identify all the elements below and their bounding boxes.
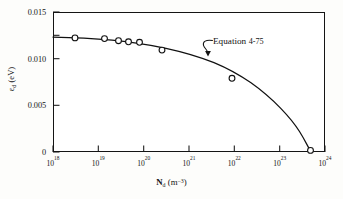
x-tick-exponent: 23 bbox=[281, 155, 286, 161]
x-tick-label: 1019 bbox=[92, 157, 105, 168]
annotation-text: Equation bbox=[213, 36, 246, 46]
annotation-arrow bbox=[203, 40, 212, 56]
y-tick-label: 0.015 bbox=[2, 8, 46, 17]
x-tick-exponent: 18 bbox=[54, 155, 59, 161]
data-point bbox=[229, 75, 235, 81]
x-axis-symbol: N bbox=[156, 177, 162, 187]
x-tick-exponent: 24 bbox=[326, 155, 331, 161]
x-axis-ticks bbox=[53, 146, 325, 153]
x-tick-label: 1022 bbox=[228, 157, 241, 168]
x-tick-exponent: 21 bbox=[190, 155, 195, 161]
y-tick-label: 0 bbox=[2, 148, 46, 157]
data-point bbox=[102, 36, 108, 42]
data-point bbox=[137, 39, 143, 45]
x-tick-exponent: 19 bbox=[99, 155, 104, 161]
chart-canvas bbox=[0, 0, 343, 199]
y-axis-units: (eV) bbox=[6, 67, 16, 83]
x-axis-units-exponent: −3 bbox=[178, 178, 184, 184]
x-tick-mantissa: 10 bbox=[228, 159, 236, 168]
x-tick-mantissa: 10 bbox=[92, 159, 100, 168]
x-tick-label: 1024 bbox=[319, 157, 332, 168]
curve-annotation-label: Equation4-75 bbox=[213, 36, 264, 46]
x-axis-units-open: (m bbox=[168, 177, 178, 187]
data-point-markers bbox=[72, 35, 313, 153]
curve-equation-4-75 bbox=[53, 37, 312, 152]
x-axis-subscript: d bbox=[163, 182, 166, 188]
x-axis-units-close: ) bbox=[184, 177, 187, 187]
data-point bbox=[159, 47, 165, 53]
x-tick-label: 1021 bbox=[183, 157, 196, 168]
x-tick-mantissa: 10 bbox=[273, 159, 281, 168]
y-axis-symbol: ε bbox=[6, 88, 16, 92]
x-axis-title: Nd (m−3) bbox=[0, 177, 343, 187]
data-point bbox=[116, 38, 122, 44]
x-tick-mantissa: 10 bbox=[183, 159, 191, 168]
y-axis-title: εd (eV) bbox=[6, 49, 16, 109]
y-axis-ticks bbox=[53, 12, 60, 152]
x-tick-mantissa: 10 bbox=[47, 159, 55, 168]
annotation-equation-number: 4-75 bbox=[249, 37, 264, 46]
x-tick-label: 1018 bbox=[47, 157, 60, 168]
x-tick-exponent: 22 bbox=[235, 155, 240, 161]
x-tick-label: 1023 bbox=[273, 157, 286, 168]
x-tick-mantissa: 10 bbox=[319, 159, 327, 168]
x-tick-mantissa: 10 bbox=[137, 159, 145, 168]
x-tick-label: 1020 bbox=[137, 157, 150, 168]
data-point bbox=[72, 35, 78, 41]
data-point bbox=[126, 39, 132, 45]
figure-container: 0.015 0.010 0.005 0 1018 1019 1020 1021 … bbox=[0, 0, 343, 199]
data-point bbox=[308, 148, 314, 154]
x-tick-exponent: 20 bbox=[145, 155, 150, 161]
y-axis-subscript: d bbox=[11, 85, 17, 88]
